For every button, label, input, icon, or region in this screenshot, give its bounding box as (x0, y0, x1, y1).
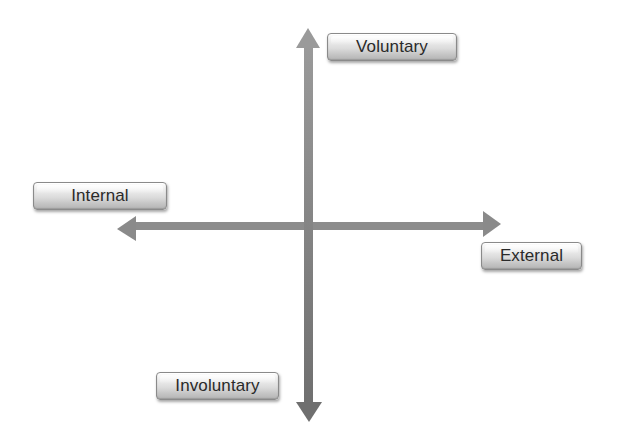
arrow-up-icon (296, 28, 320, 48)
label-internal: Internal (33, 182, 167, 210)
label-external-text: External (500, 246, 563, 266)
axes-graphic (0, 0, 617, 445)
arrow-left-icon (117, 216, 136, 241)
label-involuntary-text: Involuntary (175, 376, 259, 396)
label-involuntary: Involuntary (156, 372, 279, 400)
label-voluntary-text: Voluntary (356, 37, 428, 57)
label-voluntary: Voluntary (327, 33, 457, 61)
arrow-down-icon (296, 402, 322, 422)
label-external: External (481, 242, 582, 270)
arrow-right-icon (483, 211, 501, 237)
quadrant-diagram: Voluntary Internal External Involuntary (0, 0, 617, 445)
vertical-axis-shaft (304, 44, 313, 406)
label-internal-text: Internal (71, 186, 129, 206)
